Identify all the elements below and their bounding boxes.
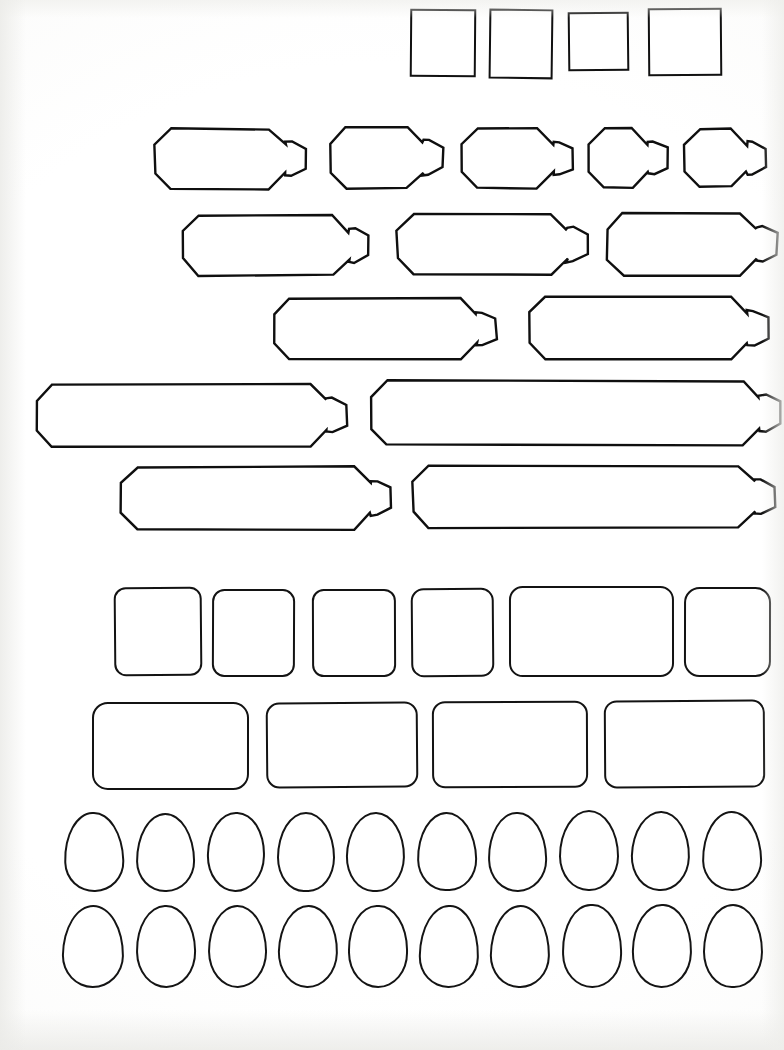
egg-shape <box>208 905 268 989</box>
egg-shape <box>631 903 693 988</box>
egg-shape <box>62 905 125 989</box>
egg-shape <box>277 904 339 988</box>
egg-shape <box>418 904 480 988</box>
egg-shape <box>135 905 196 989</box>
egg-row-2 <box>0 0 784 1050</box>
egg-shape <box>348 905 408 988</box>
egg-shape <box>489 905 550 989</box>
egg-shape <box>561 904 622 989</box>
template-sheet <box>0 0 784 1050</box>
egg-shape <box>703 904 763 988</box>
